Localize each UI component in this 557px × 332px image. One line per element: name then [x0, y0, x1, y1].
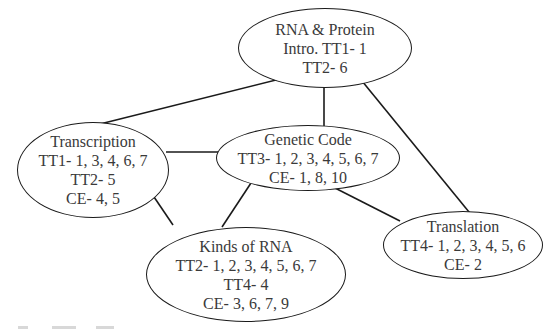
- node-detail: TT4- 4: [224, 275, 269, 294]
- node-genetic-code: Genetic Code TT3- 1, 2, 3, 4, 5, 6, 7 CE…: [216, 125, 400, 191]
- edge-genetic-code-kinds-of-rna: [222, 183, 251, 227]
- clipped-caption: [0, 322, 557, 332]
- node-title: Genetic Code: [264, 130, 352, 149]
- node-title: Translation: [427, 217, 499, 236]
- node-detail: TT2- 1, 2, 3, 4, 5, 6, 7: [176, 256, 317, 275]
- node-translation: Translation TT4- 1, 2, 3, 4, 5, 6 CE- 2: [383, 211, 543, 279]
- node-title: Kinds of RNA: [199, 237, 292, 256]
- node-detail: TT3- 1, 2, 3, 4, 5, 6, 7: [238, 149, 379, 168]
- node-detail: TT2- 5: [71, 170, 116, 189]
- node-detail: Intro. TT1- 1: [283, 39, 367, 58]
- node-title: Transcription: [50, 132, 136, 151]
- node-detail: CE- 2: [444, 255, 482, 274]
- node-detail: CE- 4, 5: [66, 189, 120, 208]
- node-kinds-of-rna: Kinds of RNA TT2- 1, 2, 3, 4, 5, 6, 7 TT…: [146, 227, 346, 322]
- node-detail: TT4- 1, 2, 3, 4, 5, 6: [401, 236, 526, 255]
- node-transcription: Transcription TT1- 1, 3, 4, 6, 7 TT2- 5 …: [17, 122, 169, 218]
- node-detail: CE- 3, 6, 7, 9: [203, 294, 289, 313]
- edge-transcription-kinds-of-rna: [152, 194, 173, 225]
- node-rna-protein: RNA & Protein Intro. TT1- 1 TT2- 6: [238, 8, 412, 88]
- node-detail: CE- 1, 8, 10: [269, 168, 347, 187]
- concept-map: RNA & Protein Intro. TT1- 1 TT2- 6 Trans…: [0, 0, 557, 332]
- node-detail: TT1- 1, 3, 4, 6, 7: [39, 151, 148, 170]
- node-title: RNA & Protein: [275, 20, 375, 39]
- edge-genetic-code-translation: [335, 188, 400, 221]
- node-detail: TT2- 6: [303, 58, 348, 77]
